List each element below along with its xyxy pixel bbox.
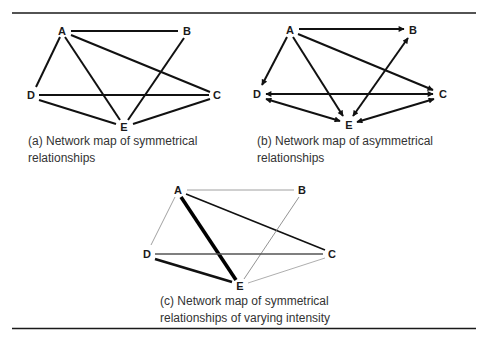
edge-b-e: [128, 38, 184, 120]
node-a: A: [174, 184, 182, 196]
caption-c: (c) Network map of symmetrical relations…: [160, 293, 330, 327]
node-e: E: [236, 280, 243, 292]
node-c: C: [439, 88, 447, 100]
edge-a-e: [65, 37, 120, 120]
edge-a-d: [36, 37, 60, 87]
panel-a-nodes: A B C D E: [27, 25, 221, 133]
arrow-d-e: [266, 99, 340, 121]
caption-b-line1: (b) Network map of asymmetrical: [257, 133, 433, 150]
edge-d-e: [39, 100, 116, 124]
edge-a-d: [151, 197, 175, 245]
edge-c-e: [248, 258, 325, 283]
edge-a-c: [71, 35, 210, 92]
edge-a-c: [186, 194, 325, 250]
caption-a-line1: (a) Network map of symmetrical: [28, 133, 197, 150]
caption-c-line2: relationships of varying intensity: [160, 310, 330, 327]
edge-a-e: [181, 197, 236, 280]
node-b: B: [409, 24, 417, 36]
caption-a-line2: relationships: [28, 150, 197, 167]
node-a: A: [286, 24, 294, 36]
panel-b-asymmetrical: [262, 29, 434, 122]
panel-c-varying-intensity: [151, 190, 325, 283]
network-figure: A B C D E A B C D E A B C D E: [0, 0, 486, 341]
node-c: C: [328, 248, 336, 260]
node-b: B: [183, 25, 191, 37]
node-e: E: [120, 121, 127, 133]
panel-c-nodes: A B C D E: [143, 184, 336, 292]
arrow-a-to-c: [298, 34, 433, 90]
edge-b-e: [244, 197, 299, 279]
arrow-a-to-d: [262, 37, 287, 85]
node-d: D: [27, 89, 35, 101]
node-c: C: [213, 89, 221, 101]
panel-b-nodes: A B C D E: [253, 24, 447, 131]
panel-a-symmetrical: [36, 31, 210, 124]
arrow-c-e: [357, 99, 434, 122]
caption-c-line1: (c) Network map of symmetrical: [160, 293, 330, 310]
caption-b: (b) Network map of asymmetrical relation…: [257, 133, 433, 167]
node-b: B: [298, 184, 306, 196]
caption-b-line2: relationships: [257, 150, 433, 167]
caption-a: (a) Network map of symmetrical relations…: [28, 133, 197, 167]
node-e: E: [345, 119, 352, 131]
edge-c-e: [133, 99, 210, 124]
edge-d-e: [155, 259, 232, 282]
node-a: A: [58, 25, 66, 37]
node-d: D: [253, 88, 261, 100]
node-d: D: [143, 248, 151, 260]
